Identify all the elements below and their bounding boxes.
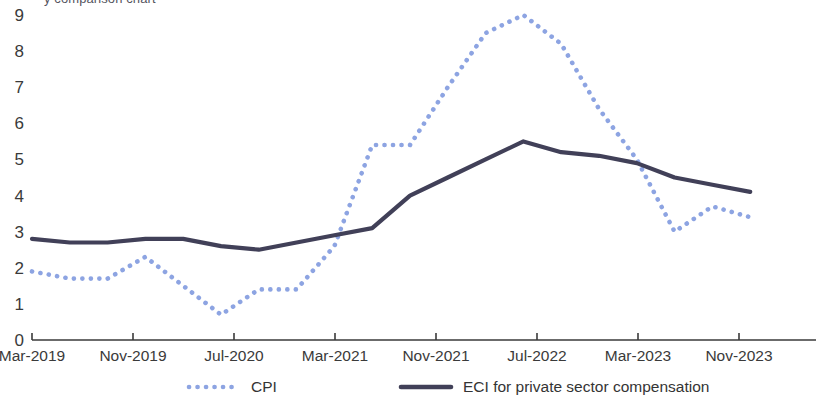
x-tick-nov-2021: Nov-2021: [386, 347, 486, 366]
x-tick-nov-2019: Nov-2019: [83, 347, 183, 366]
legend-swatch-cpi-dotted-icon: [186, 380, 242, 394]
legend-label-eci: ECI for private sector compensation: [463, 378, 709, 396]
legend-item-cpi[interactable]: CPI: [186, 378, 277, 396]
chart-legend: CPI ECI for private sector compensation: [0, 378, 826, 404]
x-tick-mar-2019: Mar-2019: [0, 347, 82, 366]
x-tick-jul-2020: Jul-2020: [184, 347, 284, 366]
chart-plot-area: [0, 0, 826, 406]
x-tick-mar-2023: Mar-2023: [588, 347, 688, 366]
legend-swatch-eci-solid-icon: [398, 380, 454, 394]
x-tick-nov-2023: Nov-2023: [689, 347, 789, 366]
chart-container: y comparison chart 9 8 7 6 5 4 3 2 1 0 M…: [0, 0, 826, 406]
legend-item-eci[interactable]: ECI for private sector compensation: [398, 378, 709, 396]
x-tick-mar-2021: Mar-2021: [285, 347, 385, 366]
legend-label-cpi: CPI: [251, 378, 277, 396]
x-axis: [32, 333, 816, 340]
x-tick-jul-2022: Jul-2022: [487, 347, 587, 366]
series-line-eci: [32, 141, 750, 249]
